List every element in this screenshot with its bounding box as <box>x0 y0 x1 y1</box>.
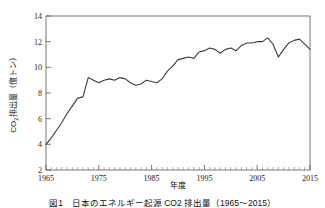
x-tick-label: 2005 <box>249 174 265 183</box>
y-tick-label: 2 <box>38 166 42 175</box>
x-tick-label: 1965 <box>38 174 54 183</box>
data-series-co2-emissions <box>46 38 310 145</box>
plot-area-border <box>46 16 310 170</box>
y-axis-tick-labels: 2468101214 <box>34 12 42 175</box>
y-axis-title-rest: 排出量（億トン） <box>8 53 18 117</box>
x-axis-title: 年度 <box>170 180 186 190</box>
y-tick-label: 10 <box>34 63 42 72</box>
y-tick-label: 8 <box>38 89 42 98</box>
y-axis-major-ticks <box>46 16 51 170</box>
x-axis-minor-ticks <box>51 167 304 170</box>
y-tick-label: 12 <box>34 38 42 47</box>
x-tick-label: 1975 <box>91 174 107 183</box>
co2-emissions-line-chart: 196519751985199520052015 2468101214 年度 C… <box>0 0 325 190</box>
x-tick-label: 1995 <box>196 174 212 183</box>
y-tick-label: 4 <box>38 140 42 149</box>
svg-text:CO2排出量（億トン）: CO2排出量（億トン） <box>8 53 19 132</box>
x-tick-label: 2015 <box>302 174 318 183</box>
figure-caption: 図1 日本のエネルギー起源 CO2 排出量（1965～2015） <box>0 196 325 208</box>
plot-frame <box>46 16 310 170</box>
y-axis-title: CO2排出量（億トン） <box>8 53 19 132</box>
y-tick-label: 6 <box>38 115 42 124</box>
x-tick-label: 1985 <box>144 174 160 183</box>
y-axis-title-co: CO <box>9 121 18 133</box>
y-tick-label: 14 <box>34 12 42 21</box>
figure-container: 196519751985199520052015 2468101214 年度 C… <box>0 0 325 208</box>
